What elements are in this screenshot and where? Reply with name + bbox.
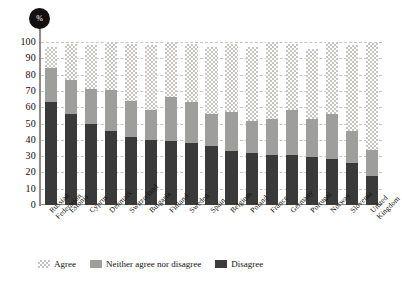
y-tick-label: 100 (8, 37, 36, 47)
bar-segment-agree[interactable] (346, 45, 358, 131)
legend-item[interactable]: Agree (38, 259, 76, 269)
bar-group[interactable] (145, 42, 157, 205)
bar-segment-disagree[interactable] (366, 176, 378, 205)
bar-segment-agree[interactable] (145, 45, 157, 110)
bar-segment-agree[interactable] (125, 44, 137, 101)
bar-segment-agree[interactable] (246, 47, 258, 121)
bar-segment-agree[interactable] (85, 45, 97, 89)
bar-segment-neither-agree-nor-disagree[interactable] (125, 101, 137, 137)
bar-segment-agree[interactable] (65, 44, 77, 81)
bar-segment-neither-agree-nor-disagree[interactable] (85, 89, 97, 123)
legend-swatch-icon (215, 260, 227, 268)
plot-area (41, 42, 382, 205)
bar-segment-agree[interactable] (45, 47, 57, 68)
y-tick-label: 60 (8, 102, 36, 112)
bar-group[interactable] (45, 42, 57, 205)
bar-segment-disagree[interactable] (165, 141, 177, 205)
bar-segment-disagree[interactable] (125, 137, 137, 205)
legend-item[interactable]: Disagree (215, 259, 263, 269)
bar-segment-disagree[interactable] (346, 163, 358, 205)
y-tick-label: 10 (8, 184, 36, 194)
bar-group[interactable] (246, 42, 258, 205)
bar-segment-neither-agree-nor-disagree[interactable] (246, 121, 258, 153)
bar-segment-disagree[interactable] (306, 157, 318, 205)
bar-segment-disagree[interactable] (145, 140, 157, 205)
bar-segment-disagree[interactable] (326, 159, 338, 205)
chart-legend: AgreeNeither agree nor disagreeDisagree (38, 258, 271, 270)
bar-segment-disagree[interactable] (225, 151, 237, 205)
bar-segment-agree[interactable] (185, 44, 197, 103)
bar-segment-neither-agree-nor-disagree[interactable] (306, 119, 318, 156)
y-tick-label: 40 (8, 135, 36, 145)
percent-unit-badge: % (29, 8, 50, 29)
bar-segment-neither-agree-nor-disagree[interactable] (205, 114, 217, 147)
bar-group[interactable] (165, 42, 177, 205)
y-axis-tick-labels: 0102030405060708090100 (8, 0, 36, 284)
bar-group[interactable] (366, 42, 378, 205)
bar-segment-agree[interactable] (225, 44, 237, 112)
bar-segment-agree[interactable] (286, 44, 298, 110)
y-tick-label: 90 (8, 53, 36, 63)
bar-segment-disagree[interactable] (286, 155, 298, 205)
bar-segment-disagree[interactable] (205, 146, 217, 205)
bar-group[interactable] (266, 42, 278, 205)
bar-group[interactable] (306, 42, 318, 205)
bar-segment-disagree[interactable] (266, 155, 278, 205)
bar-segment-agree[interactable] (266, 42, 278, 119)
bar-group[interactable] (346, 42, 358, 205)
bar-group[interactable] (286, 42, 298, 205)
bar-segment-agree[interactable] (306, 49, 318, 119)
bar-segment-disagree[interactable] (105, 131, 117, 205)
legend-swatch-icon (38, 260, 50, 268)
bar-segment-agree[interactable] (105, 42, 117, 90)
y-tick-label: 30 (8, 151, 36, 161)
y-tick-label: 20 (8, 167, 36, 177)
bar-segment-agree[interactable] (205, 47, 217, 114)
bar-segment-disagree[interactable] (246, 153, 258, 205)
bar-group[interactable] (125, 42, 137, 205)
bar-segment-neither-agree-nor-disagree[interactable] (165, 97, 177, 140)
y-tick-label: 70 (8, 86, 36, 96)
bar-group[interactable] (225, 42, 237, 205)
legend-label: Neither agree nor disagree (106, 259, 201, 269)
bar-segment-neither-agree-nor-disagree[interactable] (286, 110, 298, 156)
bar-group[interactable] (205, 42, 217, 205)
bar-group[interactable] (326, 42, 338, 205)
legend-label: Disagree (231, 259, 263, 269)
bar-segment-disagree[interactable] (65, 114, 77, 205)
bar-segment-disagree[interactable] (85, 124, 97, 206)
bar-segment-disagree[interactable] (185, 143, 197, 205)
bar-group[interactable] (85, 42, 97, 205)
bar-segment-neither-agree-nor-disagree[interactable] (225, 112, 237, 151)
legend-label: Agree (54, 259, 76, 269)
bar-segment-neither-agree-nor-disagree[interactable] (65, 80, 77, 113)
bar-segment-agree[interactable] (165, 42, 177, 97)
legend-swatch-icon (90, 260, 102, 268)
y-tick-label: 80 (8, 70, 36, 80)
bar-segment-neither-agree-nor-disagree[interactable] (366, 150, 378, 176)
legend-item[interactable]: Neither agree nor disagree (90, 259, 201, 269)
bar-segment-neither-agree-nor-disagree[interactable] (105, 90, 117, 131)
bar-segment-agree[interactable] (366, 43, 378, 151)
bar-segment-neither-agree-nor-disagree[interactable] (145, 110, 157, 139)
y-tick-label: 50 (8, 119, 36, 129)
bar-group[interactable] (65, 42, 77, 205)
bar-segment-neither-agree-nor-disagree[interactable] (185, 102, 197, 143)
bar-segment-neither-agree-nor-disagree[interactable] (326, 114, 338, 160)
bar-group[interactable] (185, 42, 197, 205)
bar-segment-disagree[interactable] (45, 102, 57, 205)
bar-segment-neither-agree-nor-disagree[interactable] (266, 119, 278, 155)
bar-segment-agree[interactable] (326, 42, 338, 114)
bar-group[interactable] (105, 42, 117, 205)
bar-segment-neither-agree-nor-disagree[interactable] (45, 68, 57, 102)
bar-segment-neither-agree-nor-disagree[interactable] (346, 131, 358, 164)
y-tick-label: 0 (8, 200, 36, 210)
